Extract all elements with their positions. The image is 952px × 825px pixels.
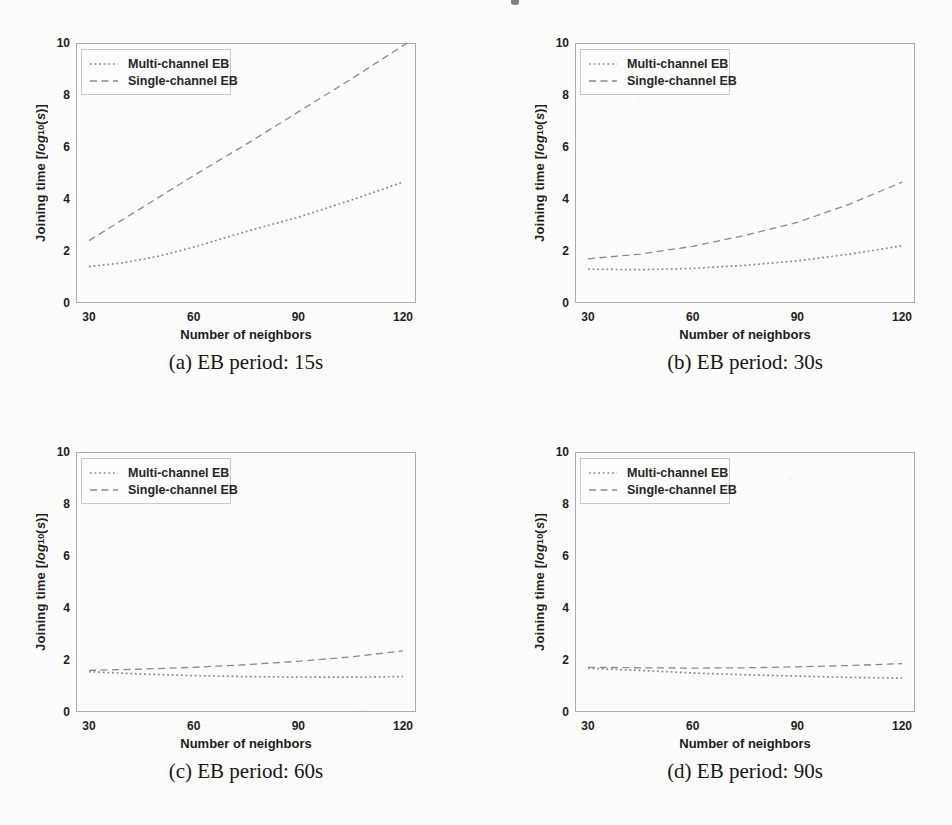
x-tick-label: 30 bbox=[581, 719, 594, 733]
y-tick-label: 6 bbox=[30, 548, 70, 564]
y-tick-label: 2 bbox=[529, 243, 569, 259]
plot-area: Multi-channel EBSingle-channel EB bbox=[575, 452, 915, 712]
legend-label: Single-channel EB bbox=[128, 483, 238, 497]
y-tick-label: 4 bbox=[529, 600, 569, 616]
x-tick-label: 120 bbox=[892, 310, 912, 324]
y-tick-label: 8 bbox=[529, 87, 569, 103]
legend-line-sample-dashed bbox=[90, 360, 118, 620]
y-tick-label: 10 bbox=[529, 444, 569, 460]
y-tick-label: 6 bbox=[529, 139, 569, 155]
legend-label: Single-channel EB bbox=[627, 74, 737, 88]
series-line-dashed bbox=[89, 651, 403, 671]
legend-line-sample-dashed bbox=[589, 0, 617, 211]
y-tick-label: 0 bbox=[529, 704, 569, 720]
x-tick-label: 120 bbox=[892, 719, 912, 733]
legend-line-sample-dashed bbox=[589, 360, 617, 620]
scanned-paper-page: Joining time [log10(s)] 0246810 Multi-ch… bbox=[0, 0, 952, 825]
series-line-dotted bbox=[588, 246, 902, 270]
series-line-dashed bbox=[588, 182, 902, 259]
y-tick-label: 4 bbox=[30, 191, 70, 207]
series-line-dotted bbox=[588, 668, 902, 678]
legend-label: Single-channel EB bbox=[128, 74, 238, 88]
x-axis-label: Number of neighbors bbox=[575, 736, 915, 751]
legend-line-sample-dashed bbox=[90, 0, 118, 211]
y-axis-tick-labels: 0246810 bbox=[529, 43, 569, 303]
x-tick-label: 60 bbox=[686, 719, 699, 733]
y-tick-label: 2 bbox=[30, 652, 70, 668]
y-tick-label: 10 bbox=[529, 35, 569, 51]
y-tick-label: 6 bbox=[529, 548, 569, 564]
legend-label: Single-channel EB bbox=[627, 483, 737, 497]
x-axis-tick-labels: 306090120 bbox=[575, 310, 915, 325]
y-tick-label: 0 bbox=[529, 295, 569, 311]
x-tick-label: 90 bbox=[292, 719, 305, 733]
legend-entry: Single-channel EB bbox=[90, 481, 224, 498]
plot-area: Multi-channel EBSingle-channel EB bbox=[76, 452, 416, 712]
y-axis-tick-labels: 0246810 bbox=[30, 43, 70, 303]
x-tick-label: 60 bbox=[686, 310, 699, 324]
y-tick-label: 0 bbox=[30, 295, 70, 311]
y-tick-label: 10 bbox=[30, 35, 70, 51]
x-tick-label: 120 bbox=[393, 719, 413, 733]
legend: Multi-channel EBSingle-channel EB bbox=[81, 49, 231, 95]
y-tick-label: 6 bbox=[30, 139, 70, 155]
x-axis-tick-labels: 306090120 bbox=[76, 719, 416, 734]
subplot-caption: (d) EB period: 90s bbox=[555, 759, 935, 784]
y-tick-label: 2 bbox=[529, 652, 569, 668]
subplot-d-eb-period-90s: Joining time [log10(s)] 0246810 Multi-ch… bbox=[529, 439, 929, 791]
y-tick-label: 4 bbox=[529, 191, 569, 207]
x-axis-tick-labels: 306090120 bbox=[76, 310, 416, 325]
legend: Multi-channel EBSingle-channel EB bbox=[580, 49, 730, 95]
legend-label: Multi-channel EB bbox=[627, 57, 728, 71]
x-tick-label: 90 bbox=[292, 310, 305, 324]
x-axis-label: Number of neighbors bbox=[76, 327, 416, 342]
legend: Multi-channel EBSingle-channel EB bbox=[580, 458, 730, 504]
cropped-text-artifact bbox=[511, 0, 519, 5]
legend-entry: Single-channel EB bbox=[589, 72, 723, 89]
legend-label: Multi-channel EB bbox=[128, 57, 229, 71]
legend-entry: Single-channel EB bbox=[90, 72, 224, 89]
plot-area: Multi-channel EBSingle-channel EB bbox=[76, 43, 416, 303]
legend: Multi-channel EBSingle-channel EB bbox=[81, 458, 231, 504]
subplot-b-eb-period-30s: Joining time [log10(s)] 0246810 Multi-ch… bbox=[529, 30, 929, 382]
x-axis-label: Number of neighbors bbox=[575, 327, 915, 342]
legend-label: Multi-channel EB bbox=[627, 466, 728, 480]
y-tick-label: 2 bbox=[30, 243, 70, 259]
y-tick-label: 8 bbox=[30, 496, 70, 512]
x-tick-label: 60 bbox=[187, 719, 200, 733]
x-tick-label: 120 bbox=[393, 310, 413, 324]
x-axis-tick-labels: 306090120 bbox=[575, 719, 915, 734]
x-tick-label: 90 bbox=[791, 310, 804, 324]
y-axis-tick-labels: 0246810 bbox=[529, 452, 569, 712]
x-tick-label: 60 bbox=[187, 310, 200, 324]
y-tick-label: 10 bbox=[30, 444, 70, 460]
y-tick-label: 8 bbox=[30, 87, 70, 103]
y-tick-label: 0 bbox=[30, 704, 70, 720]
series-line-dashed bbox=[588, 664, 902, 669]
x-axis-label: Number of neighbors bbox=[76, 736, 416, 751]
y-tick-label: 4 bbox=[30, 600, 70, 616]
y-tick-label: 8 bbox=[529, 496, 569, 512]
x-tick-label: 90 bbox=[791, 719, 804, 733]
legend-entry: Single-channel EB bbox=[589, 481, 723, 498]
legend-label: Multi-channel EB bbox=[128, 466, 229, 480]
subplot-a-eb-period-15s: Joining time [log10(s)] 0246810 Multi-ch… bbox=[30, 30, 430, 382]
x-tick-label: 30 bbox=[581, 310, 594, 324]
y-axis-tick-labels: 0246810 bbox=[30, 452, 70, 712]
subplot-c-eb-period-60s: Joining time [log10(s)] 0246810 Multi-ch… bbox=[30, 439, 430, 791]
plot-area: Multi-channel EBSingle-channel EB bbox=[575, 43, 915, 303]
series-line-dotted bbox=[89, 182, 403, 267]
x-tick-label: 30 bbox=[82, 719, 95, 733]
subplot-caption: (c) EB period: 60s bbox=[56, 759, 436, 784]
x-tick-label: 30 bbox=[82, 310, 95, 324]
series-line-dotted bbox=[89, 672, 403, 678]
